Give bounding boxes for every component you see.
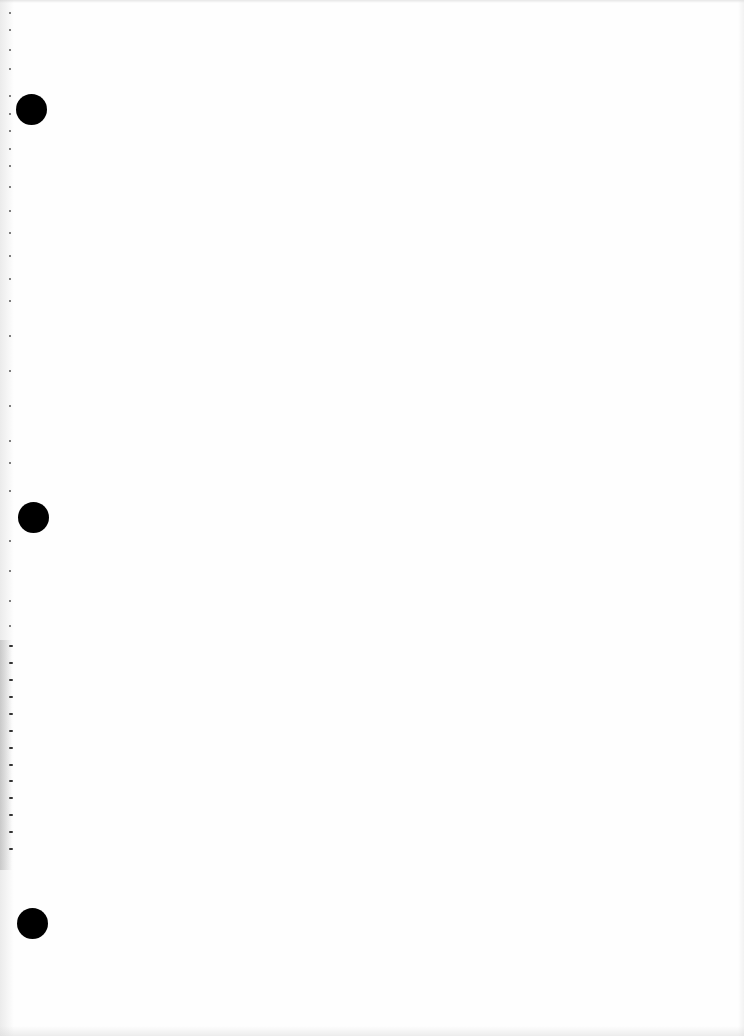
perforation-mark (9, 95, 11, 97)
perforation-mark (9, 625, 11, 627)
perforation-mark (9, 335, 11, 337)
perforation-mark (9, 490, 11, 492)
perforation-mark (9, 662, 13, 664)
perforation-mark (9, 300, 11, 302)
scanned-page (0, 0, 744, 1036)
perforation-mark (9, 130, 11, 132)
perforation-mark (9, 232, 11, 234)
scan-edge-right-shadow (738, 0, 744, 1036)
punch-hole-1 (16, 94, 47, 125)
perforation-mark (9, 831, 13, 833)
perforation-mark (9, 730, 13, 732)
perforation-mark (9, 570, 11, 572)
perforation-mark (9, 278, 11, 280)
perforation-mark (9, 49, 11, 51)
perforation-mark (9, 679, 13, 681)
punch-hole-3 (17, 908, 48, 939)
perforation-mark (9, 255, 11, 257)
perforation-mark (9, 165, 11, 167)
perforation-mark (9, 600, 11, 602)
perforation-mark (9, 747, 13, 749)
perforation-mark (9, 68, 11, 70)
perforation-mark (9, 797, 13, 799)
perforation-mark (9, 148, 11, 150)
perforation-mark (9, 405, 11, 407)
perforation-mark (9, 462, 11, 464)
perforation-mark (9, 113, 11, 115)
perforation-mark (9, 848, 13, 850)
scan-edge-left-shadow (0, 0, 14, 1036)
perforation-mark (9, 780, 13, 782)
perforation-mark (9, 713, 13, 715)
punch-hole-2 (18, 502, 49, 533)
scan-edge-bottom-shadow (0, 1026, 744, 1036)
scan-edge-left-lower-shadow (0, 640, 12, 870)
perforation-mark (9, 696, 13, 698)
perforation-mark (9, 440, 11, 442)
perforation-mark (9, 29, 11, 31)
perforation-mark (9, 186, 11, 188)
scan-edge-top-shadow (0, 0, 744, 3)
perforation-mark (9, 764, 13, 766)
perforation-mark (9, 210, 11, 212)
perforation-mark (9, 370, 11, 372)
perforation-mark (9, 12, 11, 14)
perforation-mark (9, 814, 13, 816)
perforation-mark (9, 540, 11, 542)
perforation-mark (9, 645, 13, 647)
